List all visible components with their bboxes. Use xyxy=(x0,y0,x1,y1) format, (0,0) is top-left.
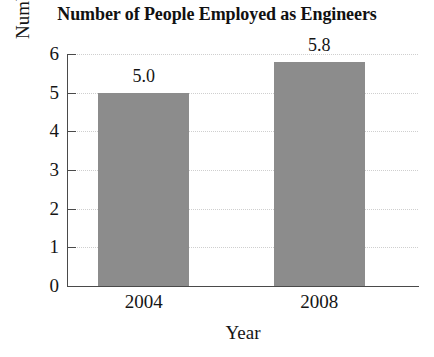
bar-2008 xyxy=(274,62,365,286)
x-axis-title: Year xyxy=(67,322,419,344)
y-tick-label-2: 2 xyxy=(19,199,59,218)
x-tick-label-2008: 2008 xyxy=(279,292,359,311)
y-tick-label-5: 5 xyxy=(19,83,59,102)
y-tick-label-0: 0 xyxy=(19,276,59,295)
y-axis-title: Number (millions) xyxy=(8,0,38,84)
y-tick-label-6: 6 xyxy=(19,44,59,63)
y-tick-mark-2 xyxy=(67,209,76,210)
bar-value-label-2008: 5.8 xyxy=(279,36,359,54)
bar-value-label-2004: 5.0 xyxy=(104,67,184,85)
y-tick-label-1: 1 xyxy=(19,237,59,256)
y-tick-label-4: 4 xyxy=(19,121,59,140)
bar-chart: Number of People Employed as Engineers N… xyxy=(0,0,434,357)
y-tick-mark-1 xyxy=(67,247,76,248)
x-axis-line xyxy=(67,286,419,287)
plot-area xyxy=(67,54,418,286)
y-tick-mark-6 xyxy=(67,54,76,55)
y-tick-mark-4 xyxy=(67,131,76,132)
y-axis-line xyxy=(67,54,68,287)
y-tick-mark-3 xyxy=(67,170,76,171)
x-tick-label-2004: 2004 xyxy=(104,292,184,311)
y-tick-label-3: 3 xyxy=(19,160,59,179)
bar-2004 xyxy=(98,93,189,286)
chart-title: Number of People Employed as Engineers xyxy=(0,4,434,25)
y-tick-mark-5 xyxy=(67,93,76,94)
gridline-y-6 xyxy=(67,54,418,55)
